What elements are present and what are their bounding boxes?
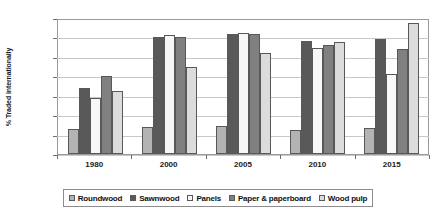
bar — [153, 37, 164, 154]
legend-item[interactable]: Roundwood — [69, 194, 122, 203]
bar — [408, 23, 419, 154]
legend-swatch-icon — [229, 195, 235, 201]
x-axis-tick-label: 1980 — [85, 160, 103, 169]
x-axis-labels: 19802000200520102015 — [57, 155, 429, 175]
legend-label: Sawnwood — [139, 194, 179, 203]
bar — [227, 34, 238, 154]
bar-group — [290, 20, 345, 154]
x-axis-tick: 2000 — [160, 155, 178, 175]
legend-label: Wood pulp — [328, 194, 367, 203]
bar — [323, 45, 334, 154]
bar — [164, 35, 175, 154]
bar — [290, 130, 301, 154]
chart-legend: RoundwoodSawnwoodPanelsPaper & paperboar… — [63, 189, 373, 207]
bar — [238, 33, 249, 154]
bar — [175, 37, 186, 154]
x-axis-tick-label: 2005 — [234, 160, 252, 169]
bar — [216, 126, 227, 154]
bar-group — [364, 20, 419, 154]
x-axis-tick: 2010 — [308, 155, 326, 175]
legend-label: Panels — [196, 194, 221, 203]
bar — [397, 49, 408, 154]
legend-swatch-icon — [319, 195, 325, 201]
legend-item[interactable]: Wood pulp — [319, 194, 367, 203]
x-axis-tick: 2015 — [383, 155, 401, 175]
y-axis-tick-mark — [53, 97, 57, 98]
y-axis-tick-mark — [53, 116, 57, 117]
bar — [79, 88, 90, 154]
bar — [334, 42, 345, 154]
legend-item[interactable]: Paper & paperboard — [229, 194, 311, 203]
legend-label: Roundwood — [78, 194, 122, 203]
plot-wrapper: 35%30%25%20%15%10%5%0% — [57, 19, 429, 155]
bar-group — [142, 20, 197, 154]
y-axis-tick-mark — [53, 77, 57, 78]
bar — [375, 39, 386, 154]
legend-item[interactable]: Sawnwood — [130, 194, 179, 203]
bar — [312, 48, 323, 154]
y-axis-tick-mark — [53, 136, 57, 137]
bar — [90, 98, 101, 154]
legend-item[interactable]: Panels — [187, 194, 221, 203]
legend-swatch-icon — [69, 195, 75, 201]
bar — [260, 53, 271, 154]
bar — [249, 34, 260, 154]
y-axis-tick-mark — [53, 38, 57, 39]
bar — [101, 76, 112, 154]
bar — [112, 91, 123, 154]
x-axis-tick: 1980 — [85, 155, 103, 175]
x-axis-tick-label: 2010 — [308, 160, 326, 169]
x-axis-tick-label: 2015 — [383, 160, 401, 169]
bar — [68, 129, 79, 154]
legend-swatch-icon — [187, 195, 193, 201]
y-axis-tick-mark — [53, 58, 57, 59]
chart-container: % Traded internationally 35%30%25%20%15%… — [0, 0, 436, 217]
x-axis-tick-mark — [429, 155, 430, 159]
bar — [186, 67, 197, 154]
bar-groups — [58, 20, 428, 154]
y-axis-tick-mark — [53, 19, 57, 20]
y-axis-title: % Traded internationally — [2, 19, 14, 155]
x-axis-tick: 2005 — [234, 155, 252, 175]
legend-swatch-icon — [130, 195, 136, 201]
bar — [386, 74, 397, 154]
x-axis-tick-label: 2000 — [160, 160, 178, 169]
bar — [364, 128, 375, 154]
legend-label: Paper & paperboard — [238, 194, 311, 203]
bar — [142, 127, 153, 154]
bar-group — [216, 20, 271, 154]
bar — [301, 41, 312, 154]
bar-group — [68, 20, 123, 154]
